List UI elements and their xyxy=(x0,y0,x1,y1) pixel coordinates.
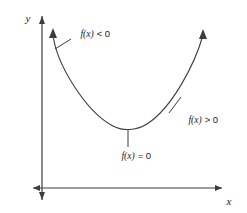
parabola-arrow-left xyxy=(49,28,57,38)
y-axis xyxy=(39,16,45,200)
x-axis xyxy=(33,185,222,191)
annotation-positive-region: f(x)> 0 xyxy=(169,97,231,126)
x-axis-arrow-left xyxy=(33,185,40,191)
function-sign-diagram: y x f(x)< 0 f(x)> 0 f(x)= 0 xyxy=(0,0,247,213)
leader-line-positive xyxy=(169,97,181,113)
leader-line-negative xyxy=(55,39,71,49)
y-axis-arrow-bottom xyxy=(39,192,45,200)
y-axis-label: y xyxy=(25,12,31,24)
label-negative-function: f(x) xyxy=(80,29,93,40)
label-positive-function: f(x) xyxy=(188,115,201,126)
y-axis-arrow-top xyxy=(39,16,45,24)
label-positive-region: f(x)> 0 xyxy=(170,114,231,126)
x-axis-arrow-right xyxy=(215,185,222,191)
label-negative-region: f(x)< 0 xyxy=(62,28,123,40)
annotation-negative-region: f(x)< 0 xyxy=(55,28,123,49)
label-negative-relation: < 0 xyxy=(97,28,110,39)
label-zero-function: f(x) xyxy=(121,151,134,162)
x-axis-label: x xyxy=(226,195,232,207)
label-zero-point: f(x)= 0 xyxy=(103,150,164,162)
label-positive-relation: > 0 xyxy=(205,114,218,125)
label-zero-relation: = 0 xyxy=(138,150,151,161)
parabola-arrow-right xyxy=(199,29,207,39)
annotation-zero-point: f(x)= 0 xyxy=(103,130,164,162)
